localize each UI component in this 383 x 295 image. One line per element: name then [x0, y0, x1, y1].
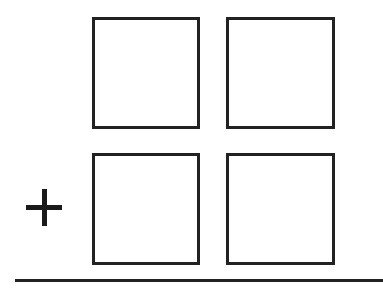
- digit-box-row2-tens[interactable]: [92, 153, 200, 265]
- digit-box-row1-ones[interactable]: [226, 17, 335, 129]
- answer-line: [15, 279, 383, 282]
- digit-box-row1-tens[interactable]: [92, 17, 200, 129]
- digit-box-row2-ones[interactable]: [226, 153, 335, 265]
